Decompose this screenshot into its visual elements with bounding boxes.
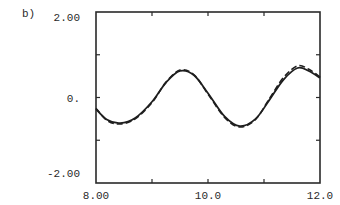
y-tick-label: 2.00 [54, 12, 80, 24]
series-solid-line [96, 68, 320, 127]
x-tick-label: 12.0 [307, 190, 333, 202]
y-tick-label: -2.00 [47, 168, 80, 180]
x-axis-tick-labels: 8.0010.012.0 [83, 190, 333, 202]
x-tick-label: 8.00 [83, 190, 109, 202]
y-axis-tick-labels: 2.000.-2.00 [47, 12, 80, 180]
data-series [96, 66, 320, 127]
y-tick-label: 0. [67, 93, 80, 105]
series-dashed-line [96, 66, 320, 127]
axis-ticks [96, 12, 320, 183]
plot-border [96, 12, 320, 183]
x-tick-label: 10.0 [195, 190, 221, 202]
line-chart: b) 2.000.-2.00 8.0010.012.0 [0, 0, 340, 205]
panel-label: b) [22, 8, 35, 20]
plot-frame [96, 12, 320, 183]
